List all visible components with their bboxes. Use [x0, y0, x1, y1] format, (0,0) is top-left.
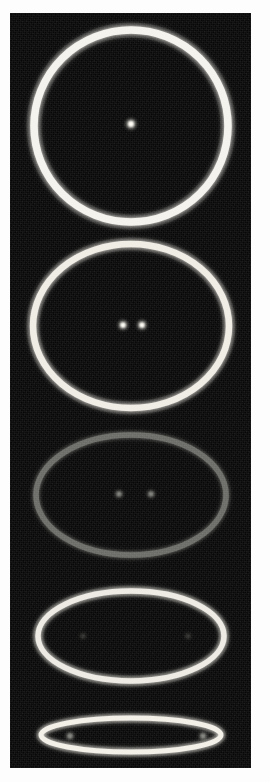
photographic-plate: [10, 13, 251, 768]
panel-region-3: [10, 425, 251, 565]
panel-region-2: [10, 234, 251, 418]
panel-region-5: [10, 708, 251, 762]
screenshot-root: [0, 0, 270, 782]
panel-region-1: [10, 20, 251, 232]
panel-region-4: [10, 581, 251, 691]
